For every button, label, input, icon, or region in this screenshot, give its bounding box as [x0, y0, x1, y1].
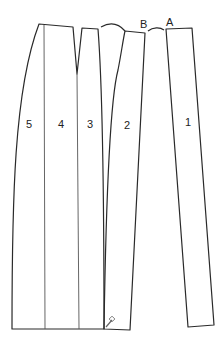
- label-panel-2: 2: [124, 119, 130, 131]
- label-point-b: B: [140, 18, 147, 30]
- label-panel-3: 3: [87, 118, 93, 130]
- label-panel-5: 5: [26, 118, 32, 130]
- label-point-a: A: [166, 16, 174, 28]
- label-panel-4: 4: [58, 118, 64, 130]
- labels-layer: 5 4 3 2 1 B A: [0, 0, 222, 338]
- label-panel-1: 1: [185, 116, 191, 128]
